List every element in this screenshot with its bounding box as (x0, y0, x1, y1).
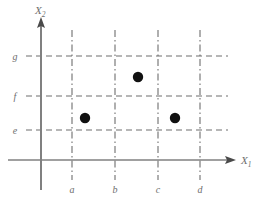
x-tick-label-c: c (156, 184, 161, 195)
data-point-marker (170, 113, 180, 123)
axes (8, 17, 236, 190)
scatter-plot-figure: X2 X1 g f e a b c d (0, 0, 266, 209)
x-axis-label-subscript: 1 (248, 160, 252, 169)
plot-canvas: X2 X1 g f e a b c d (0, 0, 266, 209)
y-axis-tick-labels: g f e (13, 51, 18, 136)
vertical-gridlines (72, 30, 200, 180)
y-axis-label-subscript: 2 (42, 10, 46, 19)
x-tick-label-d: d (198, 184, 204, 195)
y-tick-label-e: e (13, 125, 18, 136)
x-axis-tick-labels: a b c d (70, 184, 204, 195)
data-point-marker (80, 113, 90, 123)
y-axis-label: X2 (34, 4, 46, 19)
y-tick-label-g: g (13, 51, 18, 62)
data-points (80, 72, 180, 123)
data-point-marker (133, 72, 143, 82)
x-tick-label-a: a (70, 184, 75, 195)
x-axis-label: X1 (240, 154, 251, 169)
y-tick-label-f: f (14, 91, 18, 102)
x-tick-label-b: b (113, 184, 118, 195)
horizontal-gridlines (26, 56, 228, 130)
axis-labels: X2 X1 (34, 4, 251, 169)
